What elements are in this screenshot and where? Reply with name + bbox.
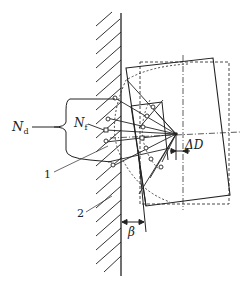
- nf-label: Nf: [73, 116, 89, 132]
- delta-d-label: ΔD: [184, 138, 204, 152]
- beta-arrow: [122, 220, 144, 225]
- callout-1-leader: [54, 146, 108, 172]
- nd-brace: [32, 99, 115, 162]
- beta-label: β: [127, 225, 135, 239]
- focal-point: [174, 132, 178, 136]
- nd-label: Nd: [11, 119, 29, 136]
- diagram-canvas: ΔD β Nd Nf 1 2: [0, 0, 244, 288]
- callout-2-label: 2: [77, 207, 84, 220]
- callout-2-leader: [86, 196, 112, 212]
- callout-1-label: 1: [44, 168, 51, 181]
- nf-leader: [88, 124, 104, 130]
